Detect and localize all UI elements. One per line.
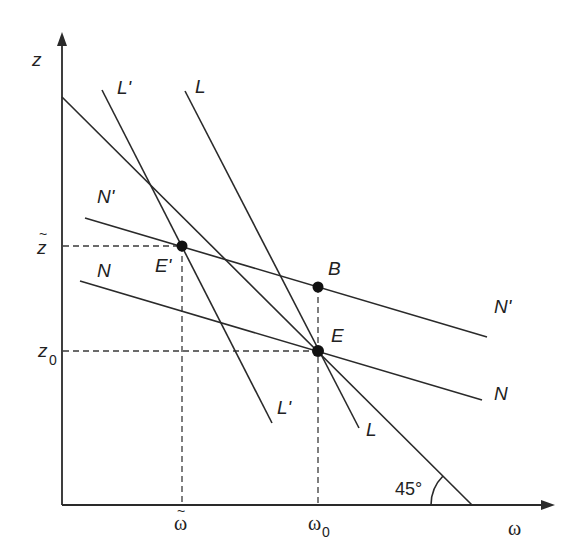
y-axis-arrow-icon xyxy=(57,32,67,46)
tick-z0-sub: 0 xyxy=(49,352,57,368)
axes xyxy=(57,32,555,510)
label-L-bottom: L xyxy=(366,419,377,440)
tick-z0: z xyxy=(37,340,48,361)
label-N-prime-left: N' xyxy=(97,186,116,207)
label-L-prime-top: L' xyxy=(117,77,133,98)
point-E-prime xyxy=(177,241,188,252)
label-N-right: N xyxy=(494,383,508,404)
y-axis-label: z xyxy=(31,49,42,70)
label-point-B: B xyxy=(328,258,341,279)
tick-omega-tilde-accent: ~ xyxy=(177,503,185,519)
curve-N xyxy=(80,281,482,400)
guide-lines xyxy=(63,246,318,505)
point-E xyxy=(312,345,324,357)
point-B xyxy=(313,282,324,293)
economic-diagram: z ω L' L N' N N' N L' L E' B E 45° z ~ z… xyxy=(0,0,581,558)
label-point-E-prime: E' xyxy=(155,255,173,276)
angle-arc xyxy=(431,476,443,505)
label-point-E: E xyxy=(331,325,344,346)
tick-z-tilde-accent: ~ xyxy=(39,226,47,242)
angle-label: 45° xyxy=(395,479,422,499)
label-N-left: N xyxy=(97,260,111,281)
label-L-prime-bottom: L' xyxy=(277,397,293,418)
forty-five-degree-line xyxy=(62,97,472,505)
points xyxy=(177,241,325,358)
curve-L-prime xyxy=(102,90,272,423)
x-axis-arrow-icon xyxy=(541,500,555,510)
x-axis-label: ω xyxy=(508,517,521,539)
tick-omega0-sub: 0 xyxy=(322,524,330,540)
curves xyxy=(62,90,487,505)
label-N-prime-right: N' xyxy=(494,296,513,317)
tick-omega0: ω xyxy=(308,512,321,534)
labels: z ω L' L N' N N' N L' L E' B E 45° z ~ z… xyxy=(31,49,521,540)
label-L-top: L xyxy=(195,76,206,97)
